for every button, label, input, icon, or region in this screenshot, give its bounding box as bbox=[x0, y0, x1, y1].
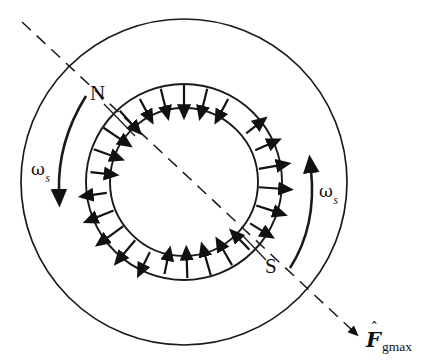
mmf-radial-arrow bbox=[91, 172, 107, 174]
mmf-radial-arrow bbox=[104, 128, 122, 140]
mmf-radial-arrow bbox=[250, 223, 264, 231]
stator-outer-circle bbox=[21, 19, 347, 345]
omega-right-symbol: ω bbox=[319, 181, 333, 201]
mmf-radial-arrow bbox=[143, 252, 150, 266]
south-pole-label: S bbox=[265, 256, 277, 277]
mmf-radial-arrow bbox=[205, 254, 211, 275]
omega-right-subscript: s bbox=[333, 194, 337, 206]
mmf-subscript: gmax bbox=[382, 340, 412, 354]
machine-cross-section-figure: N S ωs ωs ˆF gmax bbox=[0, 0, 425, 362]
mmf-radial-arrow bbox=[256, 205, 275, 211]
mmf-radial-arrow bbox=[106, 226, 124, 239]
mmf-radial-arrow bbox=[161, 89, 166, 108]
mmf-radial-arrow bbox=[120, 111, 133, 126]
magnetic-axis-line bbox=[22, 22, 352, 330]
mmf-radial-arrow bbox=[122, 240, 135, 255]
mmf-peak-label: ˆF gmax bbox=[366, 329, 412, 350]
mmf-radial-arrow bbox=[255, 144, 270, 151]
mmf-radial-arrow bbox=[238, 238, 249, 250]
mmf-script-f-symbol: ˆF bbox=[366, 329, 382, 350]
mmf-radial-arrow bbox=[94, 149, 113, 156]
mmf-radial-arrow bbox=[187, 258, 188, 278]
mmf-radial-arrow bbox=[246, 125, 257, 134]
mmf-arrow-group bbox=[91, 85, 281, 278]
mmf-radial-arrow bbox=[95, 210, 114, 217]
mmf-radial-arrow bbox=[91, 193, 107, 195]
mmf-radial-arrow bbox=[164, 258, 167, 274]
mmf-hat-accent: ˆ bbox=[371, 321, 379, 336]
mmf-radial-arrow bbox=[221, 99, 229, 113]
omega-s-left-arrow bbox=[59, 96, 86, 192]
omega-left-symbol: ω bbox=[31, 159, 45, 179]
mmf-radial-arrow bbox=[259, 187, 281, 189]
mmf-radial-arrow bbox=[140, 99, 148, 113]
mmf-radial-arrow bbox=[202, 89, 207, 108]
magnetic-axis-group bbox=[22, 22, 352, 330]
omega-s-left-label: ωs bbox=[31, 161, 49, 182]
rotor-circle bbox=[110, 108, 258, 256]
omega-s-right-arrow bbox=[290, 170, 312, 268]
machine-diagram-svg bbox=[0, 0, 425, 362]
mmf-radial-arrow bbox=[259, 165, 279, 168]
omega-left-subscript: s bbox=[45, 172, 49, 184]
air-gap-outer-circle bbox=[86, 84, 282, 280]
north-pole-label: N bbox=[90, 83, 105, 104]
mmf-radial-arrow bbox=[222, 248, 232, 265]
omega-s-right-label: ωs bbox=[319, 183, 337, 204]
